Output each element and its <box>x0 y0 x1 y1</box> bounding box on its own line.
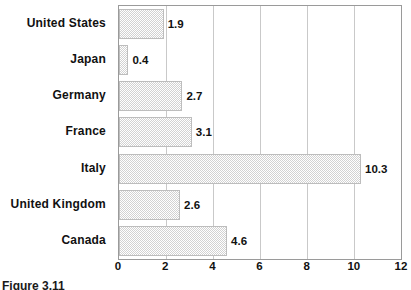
category-label-italy: Italy <box>81 161 106 175</box>
bar-united-kingdom[interactable]: 2.6 <box>119 190 180 220</box>
bar-germany[interactable]: 2.7 <box>119 81 182 111</box>
category-band: Japan <box>0 41 112 77</box>
x-tick-label: 10 <box>347 260 360 272</box>
bars-layer: 1.9 0.4 2.7 3.1 10.3 <box>119 6 401 259</box>
bar-france[interactable]: 3.1 <box>119 117 192 147</box>
category-label-france: France <box>65 124 106 138</box>
bar-band: 4.6 <box>119 223 401 259</box>
category-band: Canada <box>0 222 112 258</box>
bar-band: 2.6 <box>119 187 401 223</box>
category-label-japan: Japan <box>70 52 106 66</box>
bar-band: 0.4 <box>119 42 401 78</box>
bar-italy[interactable]: 10.3 <box>119 154 361 184</box>
x-tick-label: 0 <box>115 260 121 272</box>
category-label-united-states: United States <box>27 16 106 30</box>
x-tick-label: 4 <box>209 260 215 272</box>
category-band: Italy <box>0 150 112 186</box>
bar-japan[interactable]: 0.4 <box>119 45 128 75</box>
bar-value-label: 10.3 <box>365 163 387 175</box>
bar-value-label: 4.6 <box>231 235 247 247</box>
category-band: Germany <box>0 77 112 113</box>
bar-chart-figure: United States Japan Germany France Italy… <box>0 0 411 290</box>
x-tick-label: 8 <box>303 260 309 272</box>
bar-value-label: 1.9 <box>168 18 184 30</box>
x-tick-label: 6 <box>256 260 262 272</box>
bar-canada[interactable]: 4.6 <box>119 226 227 256</box>
figure-caption: Figure 3.11 <box>2 280 65 290</box>
bar-value-label: 2.6 <box>184 199 200 211</box>
category-label-united-kingdom: United Kingdom <box>11 197 106 211</box>
category-band: United Kingdom <box>0 186 112 222</box>
bar-value-label: 2.7 <box>186 90 202 102</box>
bar-band: 10.3 <box>119 151 401 187</box>
category-band: United States <box>0 5 112 41</box>
category-band: France <box>0 113 112 149</box>
bar-band: 3.1 <box>119 114 401 150</box>
x-axis-ticks: 024681012 <box>118 260 401 276</box>
bar-united-states[interactable]: 1.9 <box>119 9 164 39</box>
bar-band: 1.9 <box>119 6 401 42</box>
plot-area: 1.9 0.4 2.7 3.1 10.3 <box>118 5 402 260</box>
bar-value-label: 3.1 <box>196 126 212 138</box>
category-axis: United States Japan Germany France Italy… <box>0 5 112 258</box>
bar-band: 2.7 <box>119 78 401 114</box>
bar-value-label: 0.4 <box>132 54 148 66</box>
category-label-canada: Canada <box>61 233 106 247</box>
x-tick-label: 2 <box>162 260 168 272</box>
category-label-germany: Germany <box>53 88 106 102</box>
x-tick-label: 12 <box>395 260 408 272</box>
